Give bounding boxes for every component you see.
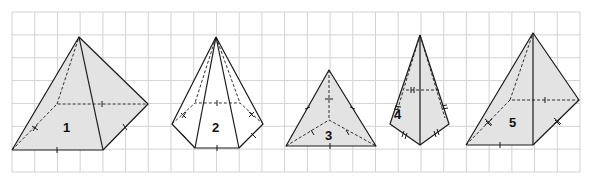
pyramid-3-label: 3 [325,128,332,143]
pyramid-1-label: 1 [63,120,70,135]
pyramid-1: 1 [12,37,148,153]
pyramid-3: 3 [286,70,376,149]
pyramid-4: 4 [390,35,449,145]
pyramid-2: 2 [172,37,263,151]
pyramid-4-label: 4 [394,107,402,122]
pyramid-1-faces [12,37,148,150]
pyramid-5: 5 [466,33,579,148]
pyramid-5-label: 5 [509,115,516,130]
pyramid-2-label: 2 [212,120,219,135]
pyramids-diagram: 1 2 3 [0,0,593,181]
